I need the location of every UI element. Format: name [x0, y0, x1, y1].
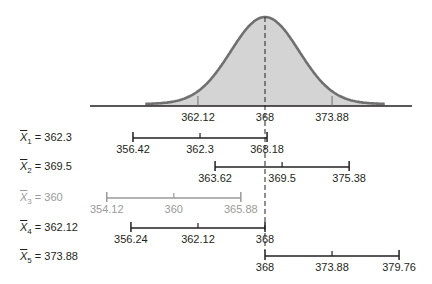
interval-tick-label: 368: [256, 233, 274, 245]
interval-tick-label: 368: [256, 261, 274, 273]
interval-mean-value: = 360: [32, 191, 63, 203]
interval-tick-label: 379.76: [382, 261, 416, 273]
interval-tick-label: 365.88: [224, 203, 258, 215]
interval-label-4: X4 = 362.12: [20, 221, 78, 236]
interval-label-2: X2 = 369.5: [20, 160, 72, 175]
interval-tick-label: 354.12: [90, 203, 124, 215]
interval-tick-label: 375.38: [332, 172, 366, 184]
interval-2: 363.62369.5375.38: [198, 161, 366, 184]
interval-tick-label: 363.62: [198, 172, 232, 184]
interval-mean-value: = 362.12: [32, 221, 78, 233]
interval-mean-value: = 369.5: [32, 160, 72, 172]
interval-label-5: X5 = 373.88: [20, 250, 78, 265]
interval-5: 368373.88379.76: [256, 250, 416, 273]
interval-mean-value: = 373.88: [32, 250, 78, 262]
axis-tick-label: 373.88: [315, 111, 349, 123]
axis-tick-label: 362.12: [181, 111, 215, 123]
confidence-interval-diagram: 362.12368373.88 356.42362.3368.18363.623…: [0, 0, 432, 284]
interval-tick-label: 356.24: [114, 233, 148, 245]
interval-tick-label: 362.12: [181, 233, 215, 245]
interval-tick-label: 369.5: [268, 172, 296, 184]
interval-tick-label: 362.3: [186, 143, 214, 155]
interval-tick-label: 368.18: [250, 143, 284, 155]
interval-label-3: X3 = 360: [20, 191, 63, 206]
interval-4: 356.24362.12368: [114, 222, 274, 245]
interval-tick-label: 360: [165, 203, 183, 215]
interval-tick-label: 356.42: [116, 143, 150, 155]
interval-3: 354.12360365.88: [90, 192, 258, 215]
interval-label-1: X1 = 362.3: [20, 131, 72, 146]
interval-1: 356.42362.3368.18: [116, 132, 284, 155]
interval-bars: 356.42362.3368.18363.62369.5375.38354.12…: [90, 132, 416, 273]
interval-tick-label: 373.88: [315, 261, 349, 273]
interval-mean-value: = 362.3: [32, 131, 72, 143]
